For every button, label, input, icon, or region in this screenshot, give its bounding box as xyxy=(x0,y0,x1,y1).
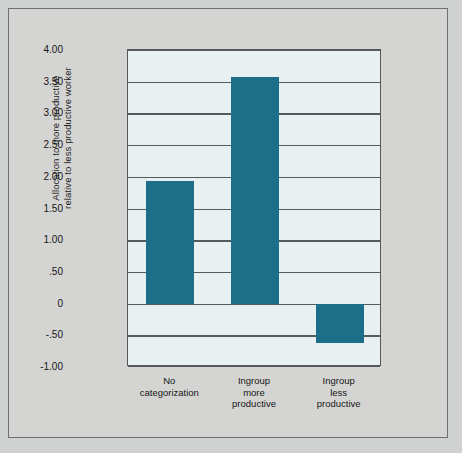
y-axis-tick-label: -.50 xyxy=(3,329,63,340)
y-axis-tick-label: 1.50 xyxy=(3,202,63,213)
x-axis-category-label: Ingroup less productive xyxy=(289,375,389,410)
bar xyxy=(316,304,364,343)
gridline xyxy=(128,366,380,367)
y-axis-tick-label: 2.50 xyxy=(3,139,63,150)
y-axis-tick-label: -1.00 xyxy=(3,361,63,372)
plot-area xyxy=(127,49,381,366)
y-axis-tick-label: .50 xyxy=(3,265,63,276)
y-axis-tick-label: 3.50 xyxy=(3,75,63,86)
gridline xyxy=(128,50,380,51)
figure-frame: Allocation to more productive relative t… xyxy=(8,8,448,438)
y-axis-tick-label: 4.00 xyxy=(3,44,63,55)
y-axis-tick-label: 0 xyxy=(3,297,63,308)
bar xyxy=(146,181,194,303)
y-axis-tick-label: 1.00 xyxy=(3,234,63,245)
y-axis-tick-label: 3.00 xyxy=(3,107,63,118)
y-axis-tick-label: 2.00 xyxy=(3,170,63,181)
bar xyxy=(231,77,279,304)
